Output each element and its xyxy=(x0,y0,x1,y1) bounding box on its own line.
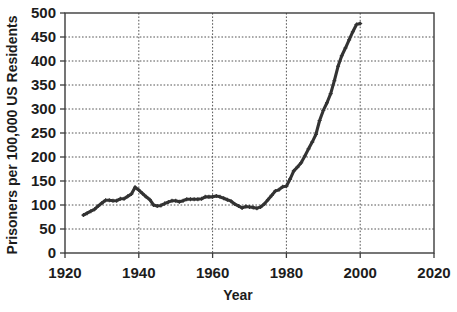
y-tick-label: 100 xyxy=(31,196,56,213)
x-tick-label: 2000 xyxy=(344,264,377,281)
y-tick-label: 0 xyxy=(48,244,56,261)
y-tick-label: 50 xyxy=(39,220,56,237)
y-tick-label: 400 xyxy=(31,52,56,69)
chart-figure: 050100150200250300350400450500 192019401… xyxy=(0,0,457,312)
y-tick-label: 450 xyxy=(31,28,56,45)
y-tick-label: 350 xyxy=(31,76,56,93)
y-tick-label: 200 xyxy=(31,148,56,165)
y-tick-label: 250 xyxy=(31,124,56,141)
x-tick-label: 2020 xyxy=(417,264,450,281)
y-tick-label: 150 xyxy=(31,172,56,189)
x-tick-label: 1940 xyxy=(122,264,155,281)
x-tick-label: 1980 xyxy=(270,264,303,281)
chart-canvas: 050100150200250300350400450500 192019401… xyxy=(0,0,457,312)
x-axis-title: Year xyxy=(223,287,253,303)
y-axis-title: Prisoners per 100,000 US Residents xyxy=(4,15,20,254)
x-tick-label: 1960 xyxy=(196,264,229,281)
x-tick-label: 1920 xyxy=(48,264,81,281)
y-tick-label: 500 xyxy=(31,4,56,21)
y-tick-label: 300 xyxy=(31,100,56,117)
